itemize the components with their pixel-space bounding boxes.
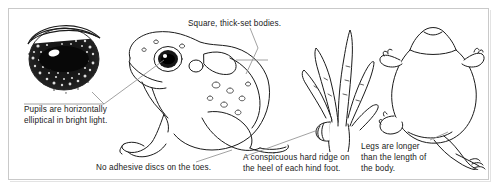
toad-side-view (112, 18, 292, 166)
toad-eye-closeup (22, 16, 108, 96)
caption-pupils: Pupils are horizontally elliptical in br… (24, 104, 152, 126)
caption-legs-longer: Legs are longer than the length of the b… (361, 141, 437, 174)
illustration-plate: Pupils are horizontally elliptical in br… (0, 0, 501, 194)
toad-side-drawing (112, 18, 292, 166)
eye-pupil (39, 46, 89, 72)
eye-closeup-drawing (22, 16, 108, 96)
caption-square-bodies: Square, thick-set bodies. (188, 18, 318, 29)
caption-no-adhesive-discs: No adhesive discs on the toes. (96, 162, 246, 173)
toad-hind-foot (300, 22, 380, 152)
hind-foot-drawing (300, 22, 380, 152)
caption-heel-ridge: A conspicuous hard ridge on the heel of … (243, 152, 371, 174)
